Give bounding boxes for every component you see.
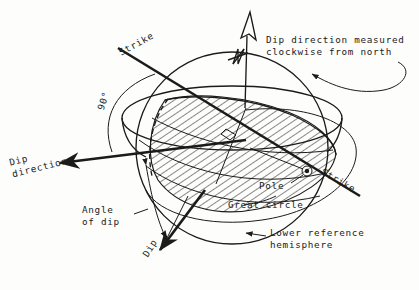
note-dip-direction-line1: Dip direction measured xyxy=(266,34,405,46)
label-great-circle: Great circle xyxy=(228,199,304,211)
note-dip-direction-line2: clockwise from north xyxy=(266,46,392,58)
label-pole: Pole xyxy=(259,180,284,192)
hemisphere-leader xyxy=(246,233,266,236)
strike-dip-stereonet-figure: Strike 90° Dip direction Angle of dip Di… xyxy=(0,0,419,290)
ninety-degree-arc xyxy=(108,74,155,152)
label-lower-reference-hemisphere: Lower reference hemisphere xyxy=(270,227,364,250)
north-arrow-icon xyxy=(228,12,256,108)
dip-leader xyxy=(163,196,188,246)
label-angle-of-dip: Angle of dip xyxy=(82,204,120,227)
